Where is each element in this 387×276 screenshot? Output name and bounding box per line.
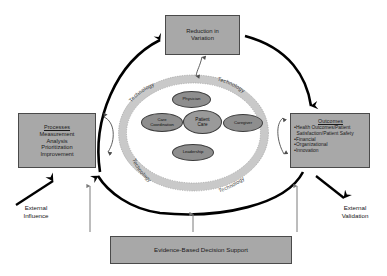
- box-outcomes-item-innovation-label: Innovation: [296, 148, 319, 153]
- arrow-external-influence: [16, 181, 53, 205]
- core-oval-care-coordination-label: Care Coordination: [150, 118, 174, 127]
- box-outcomes-item-organizational-label: Organizational: [296, 142, 328, 147]
- core-oval-physician: Physician: [172, 91, 211, 108]
- core-oval-caregiver: Caregiver: [223, 114, 263, 132]
- arc-reduction-to-outcomes: [245, 36, 311, 106]
- arc-outcomes-to-processes: [98, 172, 303, 214]
- box-evidence-based-decision-support: Evidence-Based Decision Support: [110, 236, 292, 264]
- box-outcomes-item-health-outcomes-label: Health Outcomes/Patient: [296, 125, 350, 130]
- core-oval-care-coordination: Care Coordination: [141, 113, 183, 132]
- diagram-canvas: Technology Technology Technology Technol…: [0, 0, 387, 276]
- core-oval-patient-care: Patient Care: [183, 110, 222, 134]
- box-processes-item-improvement: Improvement: [40, 151, 73, 158]
- box-reduction-line1: Reduction in: [186, 28, 219, 35]
- box-evidence-label: Evidence-Based Decision Support: [154, 246, 248, 253]
- box-processes-header: Processes: [44, 124, 70, 130]
- core-oval-leadership-label: Leadership: [183, 150, 204, 155]
- arrow-external-validation: [316, 176, 344, 198]
- box-outcomes-item-financial-label: Financial: [296, 137, 316, 142]
- box-reduction-line2: Variation: [191, 35, 214, 42]
- core-oval-caregiver-label: Caregiver: [234, 121, 252, 126]
- label-external-validation: External Validation: [326, 204, 384, 220]
- box-outcomes-item-innovation: •Innovation: [294, 148, 319, 154]
- core-oval-physician-label: Physician: [183, 97, 201, 102]
- core-oval-patient-care-label: Patient Care: [195, 117, 209, 127]
- connector-processes-to-core: [104, 117, 113, 152]
- box-outcomes: Outcomes •Health Outcomes/Patient Satisf…: [290, 113, 370, 168]
- box-processes: Processes Measurement Analysis Prioritiz…: [18, 113, 96, 168]
- connector-outcomes-to-core: [278, 118, 284, 154]
- label-external-influence: External Influence: [8, 204, 64, 220]
- box-reduction-in-variation: Reduction in Variation: [165, 15, 240, 55]
- connector-reduction-to-core: [196, 57, 202, 76]
- box-outcomes-header: Outcomes: [318, 118, 343, 124]
- technology-label-bottom-left: Technology: [131, 158, 152, 183]
- core-oval-leadership: Leadership: [172, 144, 214, 161]
- box-outcomes-item-health-outcomes-cont-label: Satisfaction/Patient Safety: [297, 131, 354, 136]
